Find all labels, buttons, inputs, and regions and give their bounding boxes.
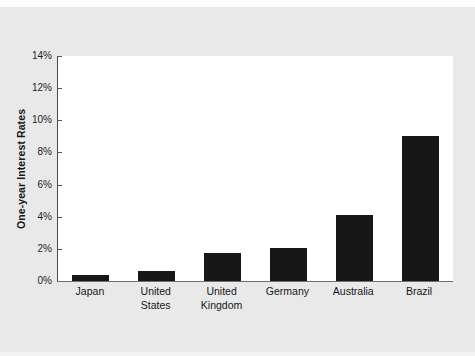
y-axis-tick-label: 0% bbox=[38, 275, 52, 287]
y-axis-tick-mark bbox=[57, 152, 62, 153]
x-axis-label-line: Australia bbox=[320, 285, 386, 299]
x-axis-label-japan: Japan bbox=[57, 285, 123, 299]
y-axis-tick-label: 12% bbox=[32, 82, 52, 94]
x-axis-label-line: United bbox=[189, 285, 255, 299]
figure-top-band bbox=[0, 0, 475, 7]
x-axis-label-line: Kingdom bbox=[189, 299, 255, 313]
y-axis-tick-label: 2% bbox=[38, 243, 52, 255]
y-axis-tick-label: 10% bbox=[32, 114, 52, 126]
y-axis-tick-mark bbox=[57, 56, 62, 57]
x-axis-label-line: Germany bbox=[255, 285, 321, 299]
y-axis-tick-label: 6% bbox=[38, 179, 52, 191]
chart-figure: One-year Interest Rates 0%2%4%6%8%10%12%… bbox=[0, 0, 475, 356]
y-axis-tick-mark bbox=[57, 217, 62, 218]
y-axis-tick-label: 14% bbox=[32, 50, 52, 62]
figure-bottom-band bbox=[0, 352, 475, 356]
y-axis-tick-mark bbox=[57, 88, 62, 89]
y-axis-tick-label: 8% bbox=[38, 146, 52, 158]
y-axis-tick-mark bbox=[57, 120, 62, 121]
y-axis-tick-mark bbox=[57, 249, 62, 250]
x-axis-label-line: United bbox=[123, 285, 189, 299]
bar-united-kingdom[interactable] bbox=[204, 253, 241, 281]
x-axis-label-australia: Australia bbox=[320, 285, 386, 299]
x-axis-label-line: States bbox=[123, 299, 189, 313]
x-axis-label-brazil: Brazil bbox=[386, 285, 452, 299]
y-axis-tick-mark bbox=[57, 185, 62, 186]
x-axis-label-line: Japan bbox=[57, 285, 123, 299]
x-axis-label-united-states: UnitedStates bbox=[123, 285, 189, 312]
bar-australia[interactable] bbox=[336, 215, 373, 281]
x-axis-label-germany: Germany bbox=[255, 285, 321, 299]
plot-area bbox=[57, 56, 453, 282]
y-axis-tick-labels: 0%2%4%6%8%10%12%14% bbox=[0, 0, 52, 356]
bar-brazil[interactable] bbox=[402, 136, 439, 281]
x-axis-category-labels: JapanUnitedStatesUnitedKingdomGermanyAus… bbox=[57, 285, 452, 325]
bar-series bbox=[58, 56, 453, 281]
x-axis-label-line: Brazil bbox=[386, 285, 452, 299]
bar-germany[interactable] bbox=[270, 248, 307, 281]
x-axis-label-united-kingdom: UnitedKingdom bbox=[189, 285, 255, 312]
bar-united-states[interactable] bbox=[138, 271, 175, 281]
y-axis-tick-label: 4% bbox=[38, 211, 52, 223]
bar-japan[interactable] bbox=[72, 275, 109, 281]
